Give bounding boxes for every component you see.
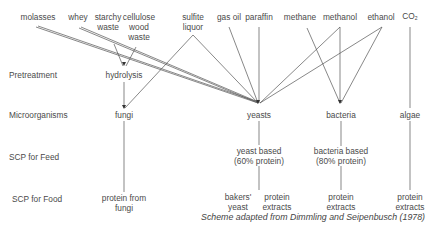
cellulose-line-1: cellulose <box>123 12 155 22</box>
source-paraffin: paraffin <box>245 12 273 22</box>
row-label-microorganisms: Microorganisms <box>9 110 68 120</box>
bakers-line-2: yeast <box>228 202 248 212</box>
protein-fungi-line-2: fungi <box>115 203 133 213</box>
source-methanol: methanol <box>323 12 357 22</box>
node-algae: algae <box>399 110 421 120</box>
node-protein-extracts-bacteria: protein extracts <box>325 192 356 212</box>
bacteria-based-line-2: (80% protein) <box>316 156 366 166</box>
sulfite-line-2: liquor <box>183 22 203 32</box>
pe-bact-line-2: extracts <box>326 202 355 212</box>
pe-yeast-line-1: protein <box>264 192 289 202</box>
pe-algae-line-1: protein <box>397 192 422 202</box>
cellulose-line-3: waste <box>128 32 150 42</box>
source-cellulose-wood-waste: cellulosewoodwaste <box>123 12 155 42</box>
caption: Scheme adapted from Dimmling and Seipenb… <box>201 212 425 222</box>
source-co2: CO₂ <box>402 11 418 21</box>
source-whey: whey <box>68 12 87 22</box>
pe-bact-line-1: protein <box>328 192 353 202</box>
starchy-line-1: starchy <box>95 12 122 22</box>
node-bakers-yeast: bakers' yeast <box>224 192 253 212</box>
row-label-pretreatment: Pretreatment <box>9 70 57 80</box>
source-methane: methane <box>284 12 316 22</box>
node-protein-from-fungi: protein from fungi <box>101 193 147 213</box>
source-ethanol: ethanol <box>367 12 394 22</box>
scp-production-scheme: molasses whey starchywaste cellulosewood… <box>0 0 430 225</box>
source-starchy-waste: starchywaste <box>95 12 122 32</box>
node-protein-extracts-yeast: protein extracts <box>261 192 292 212</box>
source-sulfite-liquor: sulfiteliquor <box>182 12 204 32</box>
row-label-scp-food: SCP for Food <box>12 194 62 204</box>
source-gas-oil: gas oil <box>217 12 241 22</box>
bakers-line-1: bakers' <box>225 192 252 202</box>
sulfite-line-1: sulfite <box>182 12 204 22</box>
yeast-based-line-1: yeast based <box>237 146 282 156</box>
starchy-line-2: waste <box>97 22 119 32</box>
node-bacteria: bacteria <box>325 110 357 120</box>
protein-fungi-line-1: protein from <box>102 193 146 203</box>
node-fungi: fungi <box>114 110 134 120</box>
node-bacteria-based: bacteria based (80% protein) <box>313 146 369 166</box>
source-molasses: molasses <box>20 12 55 22</box>
cellulose-line-2: wood <box>129 22 149 32</box>
yeast-based-line-2: (60% protein) <box>234 156 284 166</box>
node-hydrolysis: hydrolysis <box>105 70 144 80</box>
node-protein-extracts-algae: protein extracts <box>394 192 425 212</box>
node-yeasts: yeasts <box>246 110 272 120</box>
bacteria-based-line-1: bacteria based <box>314 146 368 156</box>
pe-algae-line-2: extracts <box>395 202 424 212</box>
row-label-scp-feed: SCP for Feed <box>9 152 59 162</box>
pe-yeast-line-2: extracts <box>262 202 291 212</box>
node-yeast-based: yeast based (60% protein) <box>233 146 285 166</box>
